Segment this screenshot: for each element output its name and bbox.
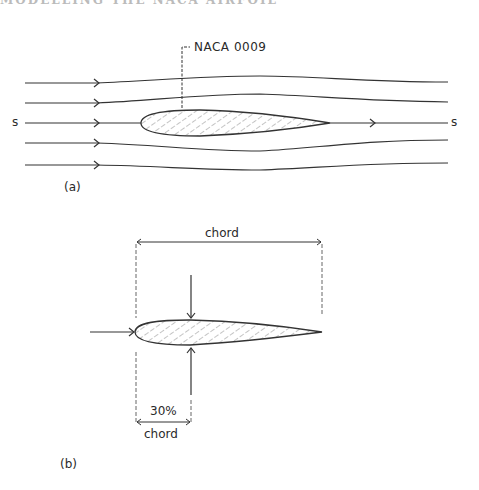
streamline-4 <box>25 140 448 151</box>
streamline-5 <box>25 163 448 170</box>
freestream-arrow-icon <box>90 328 134 336</box>
thickness-arrow-up-icon <box>187 348 195 395</box>
airfoil-b <box>135 320 322 345</box>
airfoil-diagram <box>0 0 479 490</box>
stagnation-label-left: s <box>12 116 18 128</box>
stagnation-label-right: s <box>451 116 457 128</box>
position-percent-label: 30% <box>150 405 177 417</box>
caption-a: (a) <box>64 181 81 193</box>
thickness-arrow-down-icon <box>187 275 195 318</box>
label-leader-line <box>182 47 190 108</box>
streamline-2 <box>25 94 448 103</box>
airfoil-a <box>141 110 330 136</box>
chord-label: chord <box>205 227 239 239</box>
position-chord-label: chord <box>144 428 178 440</box>
streamline-1 <box>25 76 448 83</box>
thirty-percent-dimension <box>137 419 190 425</box>
airfoil-name-label: NACA 0009 <box>194 41 266 53</box>
caption-b: (b) <box>60 458 77 470</box>
